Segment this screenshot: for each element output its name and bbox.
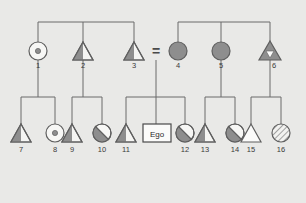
person-13[interactable]: 13 xyxy=(195,124,215,154)
person-label: 14 xyxy=(231,145,239,154)
person-15[interactable]: 15 xyxy=(241,124,261,154)
person-10[interactable]: 10 xyxy=(93,124,111,154)
person-11[interactable]: 11 xyxy=(116,124,136,154)
person-16[interactable]: 16 xyxy=(272,124,290,154)
person-5[interactable]: 5 xyxy=(212,42,230,70)
connector-lines xyxy=(21,22,281,124)
person-2[interactable]: 2 xyxy=(73,42,93,70)
person-label: 11 xyxy=(122,145,130,154)
person-label: 15 xyxy=(247,145,255,154)
person-9[interactable]: 9 xyxy=(62,124,82,154)
person-label: 2 xyxy=(81,61,85,70)
center-dot-icon xyxy=(35,48,40,53)
circle-symbol xyxy=(212,42,230,60)
person-label: 6 xyxy=(272,61,276,70)
person-label: 3 xyxy=(132,61,136,70)
person-label: 16 xyxy=(277,145,285,154)
ego-marker[interactable]: Ego xyxy=(143,124,171,142)
person-label: 1 xyxy=(36,61,40,70)
person-label: 9 xyxy=(70,145,74,154)
person-12[interactable]: 12 xyxy=(176,124,194,154)
ego-label: Ego xyxy=(150,130,165,139)
marriage-equals-symbol: = xyxy=(152,43,160,59)
circle-symbol xyxy=(169,42,187,60)
person-7[interactable]: 7 xyxy=(11,124,31,154)
person-label: 7 xyxy=(19,145,23,154)
person-label: 4 xyxy=(176,61,180,70)
pedigree-canvas: 1 2 3 = 4 5 xyxy=(0,0,306,203)
person-4[interactable]: 4 xyxy=(169,42,187,70)
person-label: 5 xyxy=(219,61,223,70)
circle-symbol xyxy=(272,124,290,142)
person-label: 12 xyxy=(181,145,189,154)
person-3[interactable]: 3 xyxy=(124,42,144,70)
person-label: 10 xyxy=(98,145,106,154)
person-label: 13 xyxy=(201,145,209,154)
center-dot-icon xyxy=(52,130,57,135)
person-label: 8 xyxy=(53,145,57,154)
person-8[interactable]: 8 xyxy=(46,124,64,154)
person-14[interactable]: 14 xyxy=(226,124,244,154)
person-1[interactable]: 1 xyxy=(29,42,47,70)
kinship-pedigree-diagram: 1 2 3 = 4 5 xyxy=(0,0,306,203)
